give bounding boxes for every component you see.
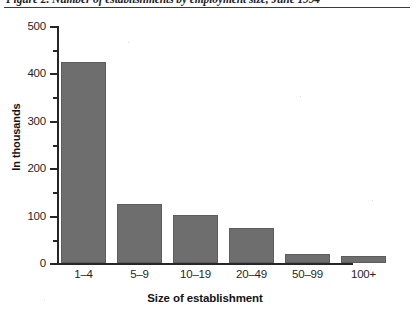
y-minor-tick-50 xyxy=(53,240,59,242)
scan-speckle xyxy=(44,300,45,301)
y-minor-tick-150 xyxy=(53,192,59,194)
y-tick-400 xyxy=(50,73,59,75)
scan-speckle xyxy=(128,42,129,43)
bar-10-19 xyxy=(173,215,218,263)
scan-speckle xyxy=(372,200,373,201)
y-tick-label-0: 0 xyxy=(16,257,46,269)
x-axis-title: Size of establishment xyxy=(57,292,353,304)
x-tick-label-1-4: 1–4 xyxy=(59,268,108,280)
bar-50-99 xyxy=(285,254,330,263)
y-minor-tick-250 xyxy=(53,145,59,147)
y-tick-500 xyxy=(50,26,59,28)
y-minor-tick-350 xyxy=(53,97,59,99)
y-tick-label-100: 100 xyxy=(16,210,46,222)
bar-1-4 xyxy=(61,62,106,263)
x-tick-label-100plus: 100+ xyxy=(339,268,388,280)
scan-speckle xyxy=(300,96,301,97)
bar-100plus xyxy=(341,256,386,263)
x-tick-label-50-99: 50–99 xyxy=(283,268,332,280)
bar-5-9 xyxy=(117,204,162,263)
y-minor-tick-450 xyxy=(53,50,59,52)
x-tick-label-10-19: 10–19 xyxy=(171,268,220,280)
y-axis-title: In thousands xyxy=(10,77,22,197)
y-tick-0 xyxy=(50,263,59,265)
y-tick-300 xyxy=(50,121,59,123)
x-tick-label-5-9: 5–9 xyxy=(115,268,164,280)
bar-20-49 xyxy=(229,228,274,263)
x-axis-line xyxy=(57,263,353,265)
x-tick-label-20-49: 20–49 xyxy=(227,268,276,280)
bar-chart: 500 400 300 200 100 0 1–4 5–9 10–19 20–4… xyxy=(0,0,416,318)
y-tick-200 xyxy=(50,168,59,170)
y-tick-label-500: 500 xyxy=(16,20,46,32)
y-tick-100 xyxy=(50,216,59,218)
